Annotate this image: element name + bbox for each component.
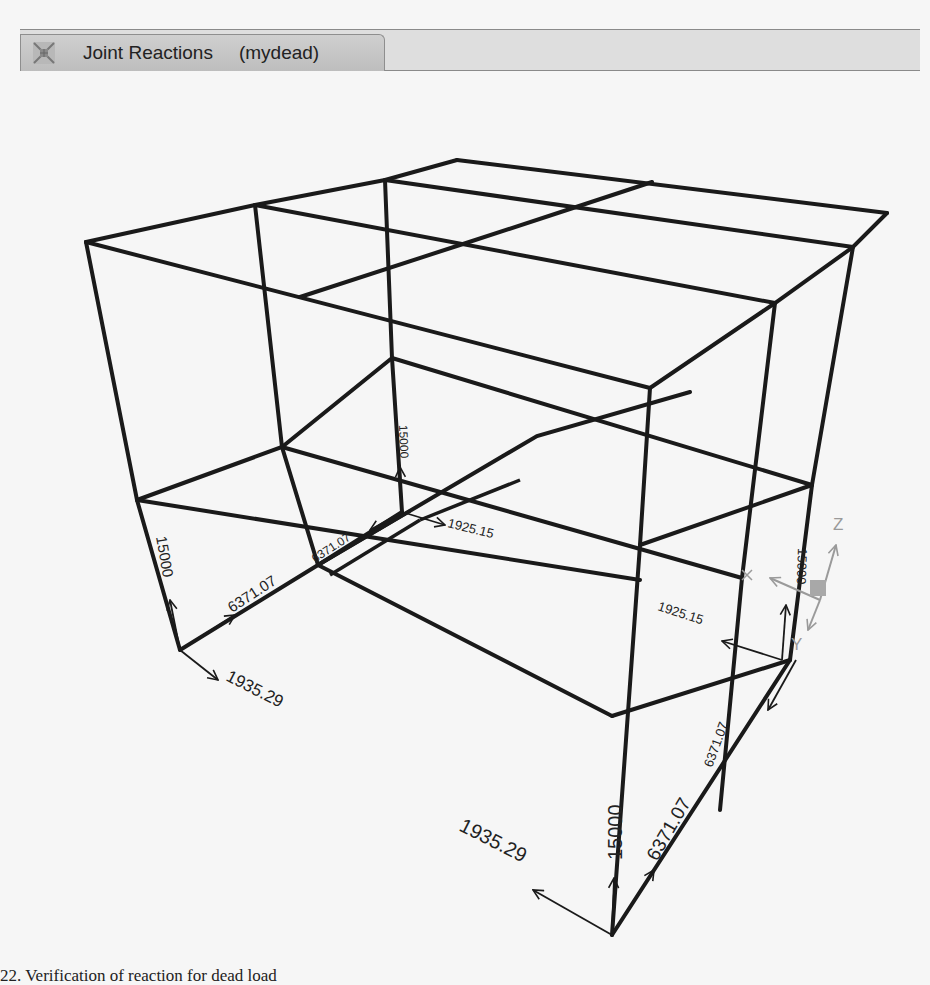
roof-beam-y-mid	[300, 182, 652, 297]
reaction-fy-arrow	[180, 615, 235, 650]
reaction-fz-label: 15000	[794, 548, 810, 585]
y-axis-arrow	[808, 600, 820, 630]
column-right-mid	[720, 303, 775, 810]
reaction-fy-arrow	[370, 512, 402, 530]
tab-joint-reactions[interactable]: Joint Reactions (mydead)	[20, 34, 385, 71]
mid-right-edge	[640, 485, 812, 545]
roof-back-edge	[457, 160, 887, 213]
reaction-fy-label: 6371.07	[642, 794, 695, 864]
figure-caption: 22. Verification of reaction for dead lo…	[0, 966, 277, 985]
reaction-fx-arrow	[180, 650, 218, 680]
reaction-fx-label: 1935.29	[223, 667, 286, 712]
column-front-left	[86, 242, 180, 650]
reaction-fz-arrow	[782, 605, 786, 660]
reaction-fz-label: 15000	[396, 425, 411, 459]
mid-left-edge	[137, 358, 392, 500]
load-case-label: (mydead)	[239, 42, 319, 64]
reaction-fx-arrow	[722, 641, 782, 660]
roof-left-edge	[86, 160, 457, 242]
roof-beam-x2	[385, 180, 853, 247]
mid-dummy	[640, 578, 742, 580]
reaction-fx-label: 1925.15	[446, 515, 495, 541]
axis-triad	[742, 545, 836, 630]
z-axis-label: Z	[833, 515, 843, 534]
ground-front-diag	[318, 565, 612, 716]
column-left-mid	[255, 205, 318, 565]
reaction-fx-arrow	[533, 890, 612, 935]
tab-bar: Joint Reactions (mydead)	[20, 29, 930, 71]
reaction-fx-label: 1935.29	[456, 814, 530, 866]
frame-members	[86, 160, 887, 935]
frame-structure-icon	[31, 40, 57, 66]
tab-title: Joint Reactions	[83, 42, 213, 64]
reaction-fz-label: 15000	[604, 804, 626, 860]
triad-origin-icon	[810, 580, 826, 596]
reaction-fy-arrow	[612, 870, 654, 935]
reaction-fx-label: 1925.15	[656, 599, 705, 628]
y-axis-label: Y	[791, 635, 802, 654]
model-viewport[interactable]: 15000 6371.07 1935.29 15000 6371.07 1925…	[0, 80, 930, 950]
ground-right	[612, 660, 790, 716]
reaction-labels: 15000 6371.07 1935.29 15000 6371.07 1925…	[153, 425, 810, 867]
